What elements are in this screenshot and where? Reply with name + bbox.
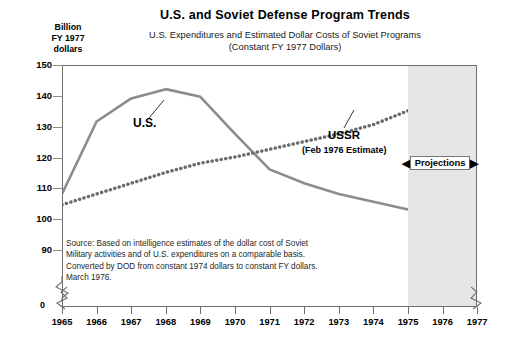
x-axis-tick: [131, 307, 132, 314]
y-axis-tick-label: 130: [12, 121, 52, 132]
x-axis-tick: [270, 307, 271, 314]
projections-label: Projections: [410, 156, 471, 170]
y-axis-tick: [53, 127, 63, 128]
source-note-line1: Source: Based on intelligence estimates …: [66, 238, 346, 249]
projections-badge: ◀ Projections ▶: [404, 155, 476, 171]
page-title: U.S. and Soviet Defense Program Trends: [120, 8, 450, 22]
source-note: Source: Based on intelligence estimates …: [66, 238, 346, 284]
y-axis-tick-label: 140: [12, 90, 52, 101]
x-axis-tick: [166, 307, 167, 314]
x-axis-tick: [97, 307, 98, 314]
chart-subtitle-line2: (Constant FY 1977 Dollars): [110, 41, 460, 53]
ussr-leader-line: [340, 110, 360, 130]
x-axis-tick: [339, 307, 340, 314]
y-axis-tick-label: 120: [12, 152, 52, 163]
x-axis-tick: [62, 307, 63, 314]
chart-subtitle: U.S. Expenditures and Estimated Dollar C…: [110, 29, 460, 53]
arrow-right-icon: ▶: [470, 158, 478, 168]
y-axis-tick: [53, 158, 63, 159]
y-axis-tick: [53, 96, 63, 97]
x-axis-tick-label: 1977: [455, 317, 499, 327]
series-label-ussr: USSR: [328, 129, 360, 141]
projection-shade-region: [408, 66, 477, 306]
series-sublabel-ussr: (Feb 1976 Estimate): [302, 145, 387, 155]
y-axis-labels: 90100110120130140150: [8, 0, 52, 342]
x-axis-tick: [443, 307, 444, 314]
y-axis-tick: [53, 188, 63, 189]
x-axis-tick: [408, 307, 409, 314]
y-axis-line: [62, 65, 63, 307]
y-axis-tick-label: 100: [12, 213, 52, 224]
y-axis-tick: [53, 65, 63, 66]
x-axis-tick: [235, 307, 236, 314]
y-axis-tick-label: 150: [12, 59, 52, 70]
source-note-line2: Military activities and of U.S. expendit…: [66, 249, 346, 260]
x-axis-tick: [304, 307, 305, 314]
x-axis-left-break-icon: [55, 287, 73, 311]
y-axis-tick-label: 90: [12, 244, 52, 255]
y-axis-tick-label: 110: [12, 182, 52, 193]
x-axis-tick: [477, 307, 478, 314]
arrow-left-icon: ◀: [402, 158, 410, 168]
y-axis-tick: [53, 250, 63, 251]
chart-subtitle-line1: U.S. Expenditures and Estimated Dollar C…: [110, 29, 460, 41]
source-note-line4: March 1976.: [66, 272, 346, 283]
x-axis-tick: [200, 307, 201, 314]
y-axis-tick: [53, 219, 63, 220]
x-axis-tick: [373, 307, 374, 314]
source-note-line3: Converted by DOD from constant 1974 doll…: [66, 261, 346, 272]
us-leader-line: [146, 100, 168, 120]
